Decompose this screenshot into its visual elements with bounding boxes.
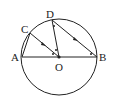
label-a: A	[11, 51, 19, 63]
label-o: O	[55, 61, 63, 73]
label-b: B	[99, 51, 106, 63]
angle-dot	[53, 25, 55, 27]
center-point	[57, 55, 60, 58]
geometry-diagram: A B C D O	[0, 0, 115, 105]
label-d: D	[46, 8, 54, 20]
angle-dot	[52, 53, 54, 55]
angle-dot	[55, 49, 57, 51]
label-c: C	[21, 23, 28, 35]
angle-dot	[90, 53, 92, 55]
